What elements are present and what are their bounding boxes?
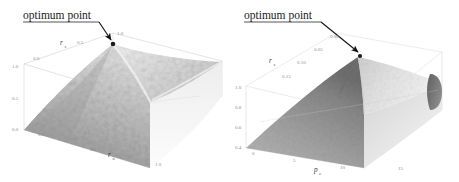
right-ztick-3: 0.6: [235, 125, 242, 130]
right-axis-title-rs: r s: [269, 57, 276, 67]
optimum-point-annotation-right: [244, 22, 358, 52]
figure-container: optimum point 1.0 0.5 0.0 0.0 0.5 1.0 0.…: [0, 0, 459, 182]
right-ytick-1: 0.00: [330, 34, 339, 39]
surface-mesh-left: [24, 44, 222, 168]
left-ztick-mid: 0.5: [12, 96, 19, 101]
left-xtick-mid: 0.5: [90, 147, 97, 152]
left-axis-title-rs-letter: r: [60, 39, 63, 47]
right-ztick-2: 0.8: [235, 105, 242, 110]
right-ytick-3: 0.10: [297, 60, 306, 65]
right-axis-title-pc-subscript: c: [319, 171, 321, 176]
left-axis-title-rs: r s: [60, 39, 67, 49]
left-xtick-origin: 0.0: [38, 132, 45, 137]
right-xtick-4: 15: [398, 166, 404, 171]
right-ztick-1: 1.0: [235, 85, 242, 90]
left-ztick-top: 1.0: [12, 64, 19, 69]
surface-plot-left: optimum point 1.0 0.5 0.0 0.0 0.5 1.0 0.…: [0, 0, 229, 182]
right-xtick-3: 10: [340, 165, 346, 170]
right-ytick-2: 0.05: [314, 47, 323, 52]
left-ytick-origin: 0.0: [33, 56, 40, 61]
optimum-point-annotation-left: [23, 22, 111, 40]
right-axis-title-pc-letter: p: [313, 166, 318, 174]
right-ytick-4: 0.15: [282, 74, 291, 79]
left-ztick-bottom: 0.0: [12, 127, 19, 132]
left-axis-title-ro-letter: r: [108, 151, 111, 159]
left-ytick-mid: 0.5: [77, 40, 84, 45]
optimum-point-label-right: optimum point: [244, 9, 313, 22]
right-axis-title-rs-subscript: s: [274, 62, 276, 67]
optimum-point-marker-right: [358, 54, 362, 58]
optimum-point-marker-left: [111, 42, 116, 47]
left-axis-title-rs-subscript: s: [65, 44, 67, 49]
right-axis-title-rs-letter: r: [269, 57, 272, 65]
left-ytick-end: 1.0: [117, 31, 124, 36]
surface-mesh-right: [246, 57, 442, 168]
surface-plot-right: optimum point 1.0 0.8 0.6 0.4 0.15 0.10 …: [230, 0, 459, 182]
optimum-point-label-left: optimum point: [23, 9, 92, 22]
right-xtick-1: 0: [252, 151, 255, 156]
left-xtick-end: 1.0: [155, 162, 162, 167]
right-axis-title-pc: p c: [313, 166, 321, 176]
right-ztick-4: 0.4: [235, 145, 242, 150]
right-xtick-2: 5: [293, 158, 296, 163]
